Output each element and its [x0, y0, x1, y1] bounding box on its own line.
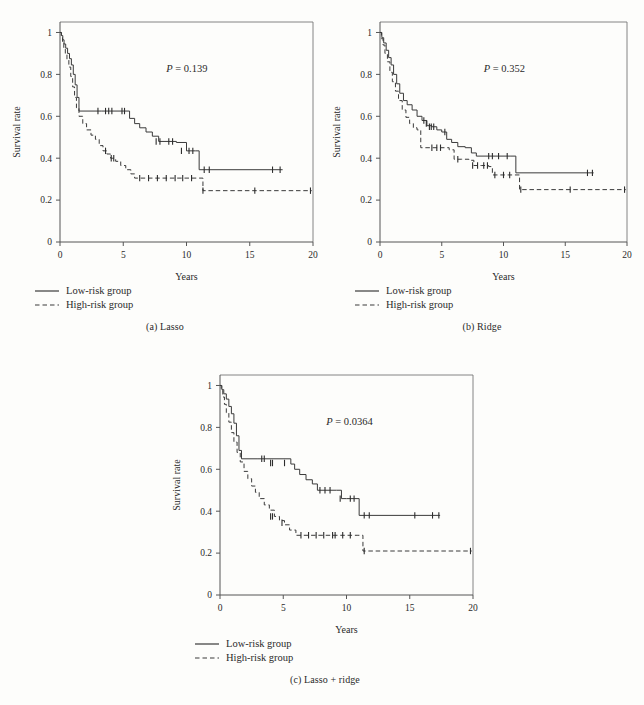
x-axis-title: Years	[492, 271, 514, 282]
legend-ridge: Low-risk group High-risk group	[320, 284, 644, 312]
y-tick-label: 0.2	[40, 195, 52, 205]
x-tick-label: 15	[405, 603, 415, 613]
legend-label-low-risk: Low-risk group	[386, 284, 452, 298]
censor-marks	[424, 117, 593, 176]
x-tick-label: 20	[308, 250, 318, 260]
x-tick-label: 10	[342, 603, 352, 613]
x-tick-label: 10	[182, 250, 192, 260]
panel-caption-lasso: (a) Lasso	[0, 321, 330, 332]
panel-lasso: 00.20.40.60.8105101520YearsSurvival rate…	[0, 0, 330, 352]
survival-chart-lasso: 00.20.40.60.8105101520YearsSurvival rate…	[0, 0, 330, 282]
y-tick-label: 0.4	[360, 154, 372, 164]
legend-item-high-risk: High-risk group	[34, 298, 330, 312]
legend-item-high-risk: High-risk group	[354, 298, 644, 312]
x-tick-label: 20	[468, 603, 478, 613]
y-tick-label: 0.6	[40, 112, 52, 122]
plot-area-lasso: 00.20.40.60.8105101520YearsSurvival rate…	[0, 0, 330, 282]
legend-key-dashed-icon	[194, 653, 220, 663]
panel-lasso-ridge: 00.20.40.60.8105101520YearsSurvival rate…	[160, 353, 490, 705]
curve-low-risk	[380, 32, 594, 172]
y-tick-label: 0.8	[40, 70, 52, 80]
y-tick-label: 1	[207, 381, 212, 391]
x-axis-title: Years	[175, 271, 197, 282]
legend-lasso-ridge: Low-risk group High-risk group	[160, 637, 490, 665]
y-tick-label: 1	[367, 28, 372, 38]
p-value-annotation: P = 0.352	[483, 63, 525, 74]
legend-key-solid-icon	[194, 639, 220, 649]
legend-lasso: Low-risk group High-risk group	[0, 284, 330, 312]
censor-marks	[432, 145, 625, 193]
panel-caption-lasso-ridge: (c) Lasso + ridge	[160, 674, 490, 685]
legend-key-dashed-icon	[34, 300, 60, 310]
legend-label-high-risk: High-risk group	[66, 298, 133, 312]
legend-key-dashed-icon	[354, 300, 380, 310]
panel-ridge: 00.20.40.60.8105101520YearsSurvival rate…	[320, 0, 644, 352]
legend-item-low-risk: Low-risk group	[354, 284, 644, 298]
legend-item-low-risk: Low-risk group	[34, 284, 330, 298]
legend-label-high-risk: High-risk group	[386, 298, 453, 312]
censor-marks	[271, 513, 471, 554]
legend-label-low-risk: Low-risk group	[226, 637, 292, 651]
y-tick-label: 0	[207, 590, 212, 600]
y-tick-label: 0.2	[200, 548, 212, 558]
y-tick-label: 0.8	[200, 423, 212, 433]
x-tick-label: 0	[218, 603, 223, 613]
x-tick-label: 15	[245, 250, 255, 260]
legend-key-solid-icon	[34, 286, 60, 296]
y-tick-label: 0.8	[360, 70, 372, 80]
y-tick-label: 0.4	[40, 154, 52, 164]
x-tick-label: 0	[58, 250, 63, 260]
y-axis-title: Survival rate	[331, 106, 342, 158]
legend-label-low-risk: Low-risk group	[66, 284, 132, 298]
y-tick-label: 0	[367, 237, 372, 247]
y-tick-label: 0	[47, 237, 52, 247]
x-tick-label: 20	[622, 250, 632, 260]
y-tick-label: 0.4	[200, 507, 212, 517]
curve-low-risk	[60, 32, 283, 169]
survival-chart-lasso-ridge: 00.20.40.60.8105101520YearsSurvival rate…	[160, 353, 490, 635]
x-tick-label: 10	[499, 250, 509, 260]
plot-area-lasso-ridge: 00.20.40.60.8105101520YearsSurvival rate…	[160, 353, 490, 635]
x-tick-label: 15	[561, 250, 571, 260]
y-axis-title: Survival rate	[11, 106, 22, 158]
legend-item-high-risk: High-risk group	[194, 651, 490, 665]
x-tick-label: 0	[378, 250, 383, 260]
y-tick-label: 1	[47, 28, 52, 38]
legend-label-high-risk: High-risk group	[226, 651, 293, 665]
censor-marks	[262, 456, 439, 519]
y-tick-label: 0.6	[200, 465, 212, 475]
legend-key-solid-icon	[354, 286, 380, 296]
y-tick-label: 0.6	[360, 112, 372, 122]
p-value-annotation: P = 0.139	[165, 63, 207, 74]
plot-area-ridge: 00.20.40.60.8105101520YearsSurvival rate…	[320, 0, 644, 282]
curve-high-risk	[220, 385, 472, 551]
curve-low-risk	[220, 385, 440, 515]
legend-item-low-risk: Low-risk group	[194, 637, 490, 651]
x-tick-label: 5	[439, 250, 444, 260]
x-axis-title: Years	[335, 624, 357, 635]
x-tick-label: 5	[121, 250, 126, 260]
censor-marks	[98, 108, 280, 173]
panel-caption-ridge: (b) Ridge	[320, 321, 644, 332]
survival-chart-ridge: 00.20.40.60.8105101520YearsSurvival rate…	[320, 0, 644, 282]
y-tick-label: 0.2	[360, 195, 372, 205]
y-axis-title: Survival rate	[171, 459, 182, 511]
p-value-annotation: P = 0.0364	[325, 416, 373, 427]
x-tick-label: 5	[281, 603, 286, 613]
